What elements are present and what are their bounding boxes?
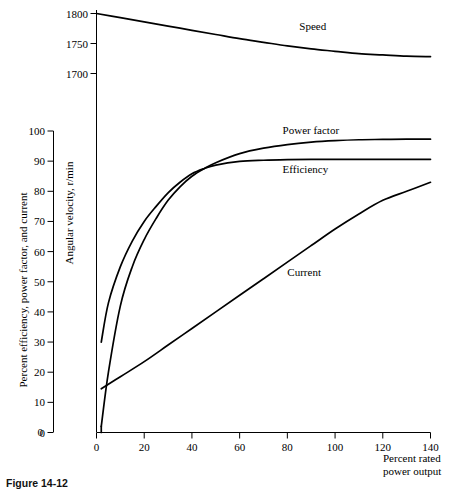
left-tick-label: 70 (34, 215, 46, 227)
x-axis-ticks (97, 433, 431, 439)
left-axis-ticks (48, 131, 54, 433)
x-tick-label: 100 (327, 441, 344, 453)
figure-root: 170017501800 Angular velocity, r/min 010… (0, 0, 451, 489)
x-tick-label: 60 (234, 441, 246, 453)
top-axis-tick-labels: 170017501800 (66, 8, 89, 80)
left-tick-label: 100 (29, 125, 46, 137)
left-tick-label: 10 (34, 396, 46, 408)
top-tick-label: 1750 (66, 38, 89, 50)
series-label-speed: Speed (299, 20, 326, 32)
left-tick-label: 80 (34, 185, 46, 197)
top-axis-title: Angular velocity, r/min (63, 161, 75, 264)
series-line-power-factor (101, 139, 430, 426)
top-tick-label: 1700 (66, 68, 89, 80)
left-axis-group: 0102030405060708090100 Percent efficienc… (17, 125, 54, 439)
left-tick-label: 60 (34, 246, 46, 258)
series-line-efficiency (101, 159, 430, 342)
left-tick-label: 90 (34, 155, 46, 167)
x-tick-label: 20 (139, 441, 151, 453)
left-tick-label: 20 (34, 366, 46, 378)
figure-caption: Figure 14-12 (6, 477, 68, 489)
series-label-current: Current (287, 266, 321, 278)
left-axis-title: Percent efficiency, power factor, and cu… (17, 192, 29, 387)
figure-caption-number: Figure 14-12 (6, 477, 68, 489)
x-axis-title-line2: power output (383, 465, 441, 477)
x-tick-label: 40 (186, 441, 198, 453)
top-tick-label: 1800 (66, 8, 89, 20)
series-label-efficiency: Efficiency (283, 163, 329, 175)
left-tick-label: 40 (34, 306, 46, 318)
left-tick-label: 30 (34, 336, 46, 348)
left-tick-label: 50 (34, 276, 46, 288)
x-tick-label: 0 (94, 441, 100, 453)
left-axis-tick-labels: 0102030405060708090100 (29, 125, 46, 439)
x-tick-label: 80 (282, 441, 294, 453)
top-axis-group: 170017501800 Angular velocity, r/min (63, 8, 97, 433)
x-axis-title-line1: Percent rated (383, 452, 441, 464)
series-label-power-factor: Power factor (283, 124, 340, 136)
series-line-speed (97, 14, 431, 57)
left-axis-zero-label: 0 (38, 426, 44, 438)
x-axis-group: 020406080100120140 Percent rated power o… (94, 433, 442, 478)
motor-performance-chart: 170017501800 Angular velocity, r/min 010… (0, 0, 451, 489)
top-axis-ticks (91, 14, 97, 74)
series-curves (97, 14, 431, 433)
series-labels: SpeedPower factorEfficiencyCurrent (283, 20, 340, 277)
